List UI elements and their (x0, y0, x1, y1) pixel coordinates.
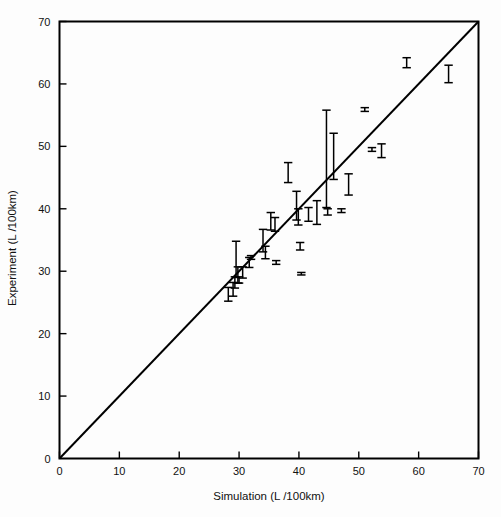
y-tick-label: 70 (38, 16, 50, 28)
y-axis-title: Experiment (L /100km) (6, 190, 18, 306)
y-tick-label: 0 (44, 453, 50, 465)
x-tick-label: 0 (56, 465, 62, 477)
x-tick-label: 30 (233, 465, 245, 477)
x-tick-label: 60 (413, 465, 425, 477)
y-tick-label: 60 (38, 78, 50, 90)
y-tick-label: 30 (38, 265, 50, 277)
y-tick-label: 20 (38, 328, 50, 340)
x-tick-label: 50 (353, 465, 365, 477)
y-tick-label: 50 (38, 140, 50, 152)
figure-container: 010203040506070 010203040506070 Simulati… (0, 0, 501, 517)
x-tick-label: 70 (472, 465, 484, 477)
x-tick-label: 20 (173, 465, 185, 477)
y-tick-label: 40 (38, 203, 50, 215)
scatter-plot: 010203040506070 010203040506070 Simulati… (0, 0, 501, 517)
x-tick-label: 40 (293, 465, 305, 477)
y-tick-label: 10 (38, 390, 50, 402)
x-tick-label: 10 (113, 465, 125, 477)
x-axis-title: Simulation (L /100km) (213, 490, 325, 502)
